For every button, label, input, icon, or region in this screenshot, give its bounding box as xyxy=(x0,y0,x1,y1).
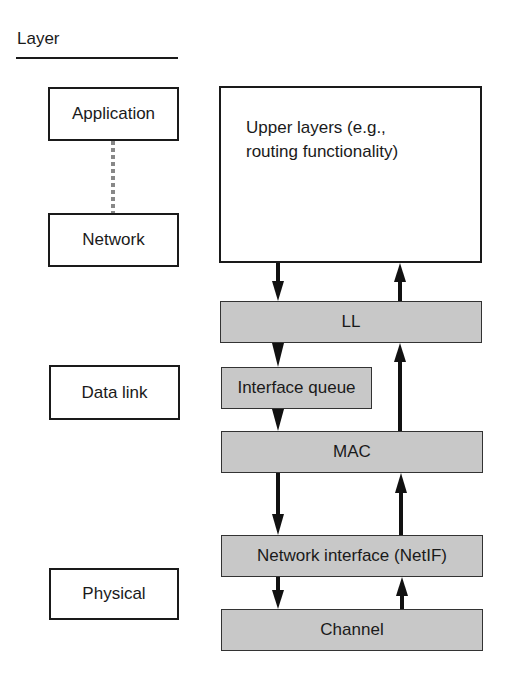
arrow-down-mac-to-netif-icon xyxy=(272,473,284,535)
arrow-down-upper-to-ll-icon xyxy=(272,263,284,301)
arrow-up-netif-to-mac-icon xyxy=(395,473,407,535)
arrow-up-mac-to-ll-icon xyxy=(394,343,406,431)
arrow-down-ifq-to-mac-icon xyxy=(272,409,284,431)
arrow-up-ll-to-upper-icon xyxy=(394,263,406,301)
flow-arrows xyxy=(0,0,509,677)
arrow-down-netif-to-channel-icon xyxy=(272,577,284,609)
arrow-up-channel-to-netif-icon xyxy=(396,577,408,609)
arrow-down-ll-to-ifq-icon xyxy=(272,343,284,367)
